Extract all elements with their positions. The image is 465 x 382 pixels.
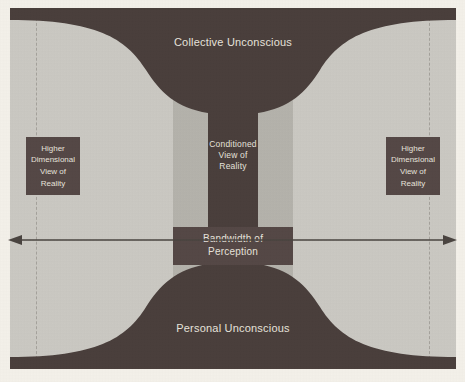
diagram-canvas: Collective Unconscious Personal Unconsci…: [0, 0, 465, 382]
higher-right-line-1: Higher: [391, 143, 435, 155]
label-collective-unconscious: Collective Unconscious: [10, 35, 456, 50]
higher-left-line-3: View of: [31, 166, 75, 178]
conditioned-line-2: View of: [193, 150, 273, 161]
higher-left-line-4: Reality: [31, 178, 75, 190]
conditioned-line-1: Conditioned: [193, 139, 273, 150]
higher-right-line-2: Dimensional: [391, 154, 435, 166]
label-higher-dimensional-view-left: Higher Dimensional View of Reality: [26, 137, 80, 195]
bandwidth-line-1: Bandwidth of: [153, 232, 313, 245]
higher-right-line-3: View of: [391, 166, 435, 178]
higher-left-line-2: Dimensional: [31, 154, 75, 166]
collective-unconscious-curve: [10, 8, 456, 113]
label-bandwidth-of-perception: Bandwidth of Perception: [153, 232, 313, 258]
personal-unconscious-curve: [10, 264, 456, 369]
conditioned-line-3: Reality: [193, 161, 273, 172]
higher-right-line-4: Reality: [391, 178, 435, 190]
label-higher-dimensional-view-right: Higher Dimensional View of Reality: [386, 137, 440, 195]
label-conditioned-view-of-reality: Conditioned View of Reality: [193, 139, 273, 173]
bandwidth-line-2: Perception: [153, 245, 313, 258]
higher-left-line-1: Higher: [31, 143, 75, 155]
label-personal-unconscious: Personal Unconscious: [10, 321, 456, 336]
diagram-panel: Collective Unconscious Personal Unconsci…: [10, 8, 456, 369]
